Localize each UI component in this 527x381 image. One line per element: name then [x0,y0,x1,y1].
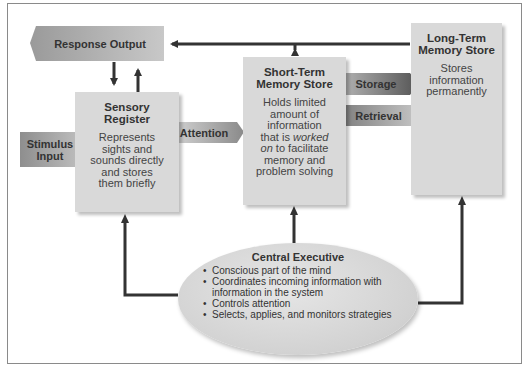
sensory-register-desc: Represents sights and sounds directly an… [75,132,179,190]
sensory-register-title: Sensory Register [75,101,179,125]
ce-item: Conscious part of the mind [203,265,392,276]
long-term-desc: Stores information permanently [411,63,502,98]
central-executive-list: Conscious part of the mind Coordinates i… [203,265,392,320]
attention-label: Attention [168,122,240,143]
short-term-title: Short-Term Memory Store [243,66,346,90]
sensory-register-box: Sensory Register Represents sights and s… [75,92,179,212]
short-term-memory-box: Short-Term Memory Store Holds limited am… [243,57,346,205]
stimulus-input-label: Stimulus Input [20,132,80,167]
ce-item: Controls attention [203,298,392,309]
ce-item: Selects, applies, and monitors strategie… [203,309,392,320]
ce-item: Coordinates incoming information withinf… [203,276,392,298]
short-term-desc: Holds limited amount of information that… [243,97,346,178]
central-executive-title: Central Executive [178,251,418,263]
stimulus-line2: Input [37,150,64,162]
stimulus-line1: Stimulus [27,138,73,150]
storage-label: Storage [338,73,414,95]
retrieval-label: Retrieval [340,105,417,126]
long-term-memory-box: Long-Term Memory Store Stores informatio… [411,23,502,195]
response-output-label: Response Output [36,26,164,61]
long-term-title: Long-Term Memory Store [411,32,502,56]
